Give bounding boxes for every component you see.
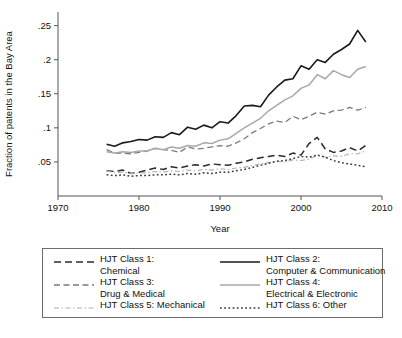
legend: HJT Class 1:Chemical HJT Class 3:Drug & … xyxy=(42,248,383,318)
legend-item-class1[interactable]: HJT Class 1:Chemical xyxy=(53,253,154,276)
y-tick-label: .2 xyxy=(43,54,51,65)
y-tick-label: .1 xyxy=(43,122,51,133)
legend-item-class6[interactable]: HJT Class 6: Other xyxy=(219,299,347,313)
x-tick-label: 1980 xyxy=(128,202,149,213)
legend-swatch-class6 xyxy=(219,303,261,313)
y-axis: .05.1.15.2.25 xyxy=(38,12,58,196)
legend-label-class6: HJT Class 6: Other xyxy=(266,299,347,311)
legend-swatch-class3 xyxy=(53,280,95,290)
x-tick-label: 1990 xyxy=(209,202,230,213)
y-tick-label: .25 xyxy=(38,20,51,31)
x-axis: 19701980199020002010 xyxy=(47,196,392,213)
y-tick-label: .15 xyxy=(38,88,51,99)
legend-label-class2: HJT Class 2:Computer & Communication xyxy=(266,253,385,276)
legend-item-class2[interactable]: HJT Class 2:Computer & Communication xyxy=(219,253,385,276)
legend-label-class3: HJT Class 3:Drug & Medical xyxy=(100,276,165,299)
y-axis-label: Fraction of patents in the Bay Area xyxy=(3,30,14,176)
legend-swatch-class1 xyxy=(53,257,95,267)
x-tick-label: 2010 xyxy=(371,202,392,213)
legend-label-class5: HJT Class 5: Mechanical xyxy=(100,299,205,311)
legend-swatch-class2 xyxy=(219,257,261,267)
chart-figure: .05.1.15.2.25 19701980199020002010 Fract… xyxy=(0,0,402,338)
legend-item-class5[interactable]: HJT Class 5: Mechanical xyxy=(53,299,205,313)
legend-label-class1: HJT Class 1:Chemical xyxy=(100,253,154,276)
x-axis-label: Year xyxy=(210,223,229,234)
data-series-group xyxy=(107,30,366,176)
series-line-class2 xyxy=(107,30,366,146)
legend-item-class4[interactable]: HJT Class 4:Electrical & Electronic xyxy=(219,276,358,299)
legend-swatch-class5 xyxy=(53,303,95,313)
legend-swatch-class4 xyxy=(219,280,261,290)
y-tick-label: .05 xyxy=(38,156,51,167)
legend-column-left: HJT Class 1:Chemical HJT Class 3:Drug & … xyxy=(43,249,239,317)
legend-column-right: HJT Class 2:Computer & Communication HJT… xyxy=(219,249,389,317)
legend-item-class3[interactable]: HJT Class 3:Drug & Medical xyxy=(53,276,165,299)
x-tick-label: 1970 xyxy=(47,202,68,213)
x-tick-label: 2000 xyxy=(290,202,311,213)
legend-label-class4: HJT Class 4:Electrical & Electronic xyxy=(266,276,358,299)
